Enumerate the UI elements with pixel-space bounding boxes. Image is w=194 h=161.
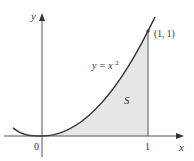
x-axis-arrow-icon <box>176 133 184 139</box>
parabola-area-diagram: y x 0 1 (1, 1) S y = x 2 <box>0 0 194 161</box>
curve-equation-label: y = x 2 <box>91 59 119 71</box>
y-axis-arrow-icon <box>39 13 45 21</box>
curve-equation-exponent: 2 <box>115 59 119 67</box>
origin-label: 0 <box>34 141 39 152</box>
point-label: (1, 1) <box>154 29 175 40</box>
y-axis-label: y <box>30 10 36 22</box>
region-s <box>42 31 148 136</box>
x-axis-label: x <box>178 141 184 153</box>
curve-equation-base: y = x <box>91 60 113 71</box>
point-marker <box>146 29 149 32</box>
x-tick-label-1: 1 <box>145 141 150 152</box>
region-label: S <box>124 94 130 106</box>
